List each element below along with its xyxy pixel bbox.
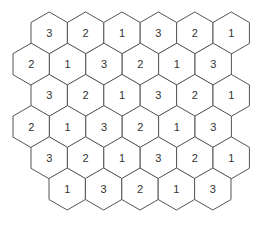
hex-number: 2	[83, 89, 89, 101]
hex-number: 3	[210, 121, 216, 133]
hex-number: 3	[210, 58, 216, 70]
hex-number: 1	[65, 58, 71, 70]
hex-number: 1	[228, 152, 234, 164]
hex-number: 2	[83, 27, 89, 39]
hex-number: 2	[192, 27, 198, 39]
hex-number: 2	[192, 89, 198, 101]
hex-number: 3	[101, 121, 107, 133]
hex-number: 3	[46, 152, 52, 164]
hex-number: 1	[228, 27, 234, 39]
hex-number: 3	[101, 58, 107, 70]
hex-number: 2	[137, 121, 143, 133]
hex-number: 3	[155, 27, 161, 39]
hex-number: 1	[173, 183, 179, 195]
hex-number: 1	[228, 89, 234, 101]
hex-number: 1	[119, 89, 125, 101]
hex-number: 3	[155, 89, 161, 101]
hex-number: 3	[155, 152, 161, 164]
hex-number: 1	[65, 121, 71, 133]
hex-number: 1	[174, 121, 180, 133]
hex-number: 2	[192, 152, 198, 164]
hex-number: 3	[210, 183, 216, 195]
hex-number: 2	[137, 58, 143, 70]
hex-number: 3	[46, 27, 52, 39]
hex-number: 2	[28, 121, 34, 133]
hex-number: 1	[119, 27, 125, 39]
hex-grid: 32132121321332132121321332132113213	[0, 0, 264, 227]
hex-number: 2	[83, 152, 89, 164]
hex-number: 1	[174, 58, 180, 70]
hex-number: 2	[137, 183, 143, 195]
hex-number: 1	[119, 152, 125, 164]
hex-number: 2	[28, 58, 34, 70]
hex-number: 3	[46, 89, 52, 101]
hex-number: 1	[64, 183, 70, 195]
hex-number: 3	[101, 183, 107, 195]
